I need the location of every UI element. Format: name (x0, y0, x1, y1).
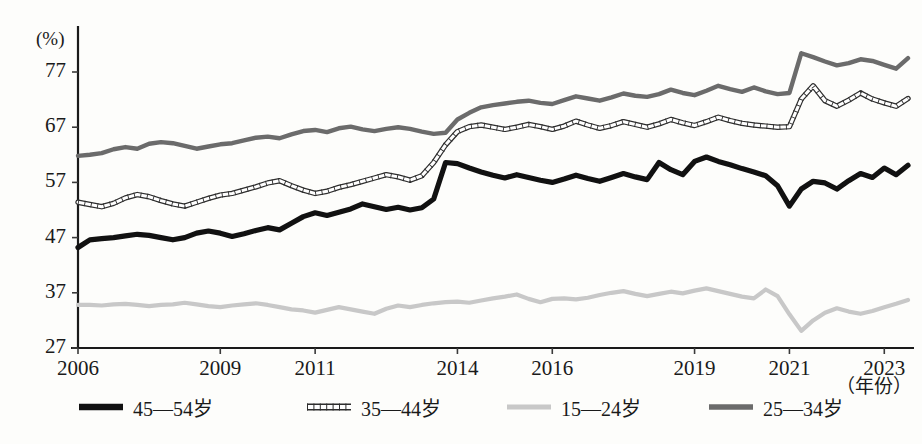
y-axis-unit-label: (%) (36, 28, 64, 50)
x-tick-label: 2016 (517, 356, 587, 381)
chart-series-layer (78, 53, 908, 331)
chart-figure: (%) 273747576777 20062009201120142016201… (0, 0, 922, 444)
legend-item-label: 25—34岁 (763, 393, 843, 422)
legend-swatch-icon (708, 400, 754, 414)
legend-item-label: 45—54岁 (133, 393, 213, 422)
legend-swatch-icon (78, 400, 124, 414)
series-line-light-gray (78, 288, 908, 331)
legend-item[interactable]: 45—54岁 (78, 392, 213, 422)
legend-swatch-icon (306, 400, 352, 414)
chart-legend: 45—54岁35—44岁15—24岁25—34岁 (78, 392, 908, 426)
y-tick-label: 37 (26, 279, 66, 304)
y-tick-label: 77 (26, 58, 66, 83)
legend-swatch-icon (506, 400, 552, 414)
legend-item[interactable]: 25—34岁 (708, 392, 843, 422)
x-tick-label: 2019 (660, 356, 730, 381)
y-tick-label: 67 (26, 113, 66, 138)
legend-item-label: 15—24岁 (561, 393, 641, 422)
series-line-dark-gray (78, 53, 908, 156)
legend-item[interactable]: 35—44岁 (306, 392, 441, 422)
x-tick-label: 2006 (43, 356, 113, 381)
x-tick-label: 2014 (422, 356, 492, 381)
x-tick-label: 2021 (754, 356, 824, 381)
y-tick-label: 57 (26, 168, 66, 193)
x-tick-label: 2009 (185, 356, 255, 381)
legend-item[interactable]: 15—24岁 (506, 392, 641, 422)
x-tick-label: 2011 (280, 356, 350, 381)
y-tick-label: 47 (26, 224, 66, 249)
legend-item-label: 35—44岁 (361, 393, 441, 422)
